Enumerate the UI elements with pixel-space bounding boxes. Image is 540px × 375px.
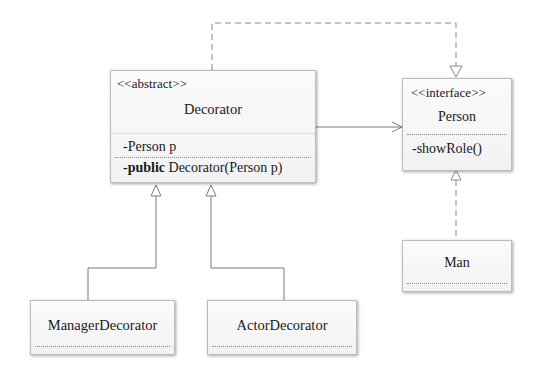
class-name: Decorator bbox=[111, 101, 315, 118]
stereotype-label: <<abstract>> bbox=[117, 76, 187, 92]
method-constructor: -public Decorator(Person p) bbox=[123, 160, 282, 176]
class-name: Person bbox=[403, 109, 511, 125]
method-showrole: -showRole() bbox=[412, 141, 482, 157]
divider bbox=[111, 133, 315, 134]
realization-decorator-person bbox=[212, 23, 462, 77]
class-man[interactable]: Man bbox=[402, 240, 512, 292]
divider bbox=[115, 157, 311, 158]
divider bbox=[407, 283, 507, 284]
divider bbox=[212, 346, 352, 347]
stereotype-label: <<interface>> bbox=[411, 85, 486, 101]
realization-man-person bbox=[451, 170, 461, 240]
class-actor-decorator[interactable]: ActorDecorator bbox=[207, 300, 357, 355]
class-name: ManagerDecorator bbox=[31, 317, 174, 334]
association-decorator-person bbox=[316, 122, 402, 132]
attribute-person-p: -Person p bbox=[123, 139, 176, 155]
class-name: Man bbox=[403, 255, 511, 271]
class-manager-decorator[interactable]: ManagerDecorator bbox=[30, 300, 175, 355]
class-decorator[interactable]: <<abstract>> Decorator -Person p -public… bbox=[110, 70, 316, 183]
method-signature: Decorator(Person p) bbox=[165, 160, 282, 175]
generalization-manager-decorator bbox=[88, 185, 161, 300]
class-name: ActorDecorator bbox=[208, 317, 356, 334]
generalization-actor-decorator bbox=[206, 185, 284, 300]
class-person[interactable]: <<interface>> Person -showRole() bbox=[402, 78, 512, 171]
divider bbox=[407, 134, 507, 135]
method-keyword: -public bbox=[123, 160, 165, 175]
divider bbox=[35, 346, 170, 347]
